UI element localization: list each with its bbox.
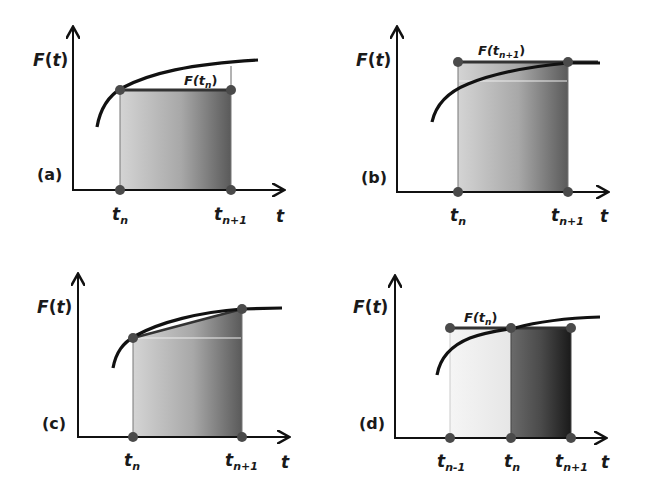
annotation-F-tn: F(tn) bbox=[464, 310, 497, 327]
y-axis-label: F(t) bbox=[37, 297, 72, 317]
point-tn1-top bbox=[237, 304, 247, 314]
point-tn1-top bbox=[566, 323, 576, 333]
panel-label: (d) bbox=[359, 414, 385, 433]
tick-label-tn: tn bbox=[450, 205, 466, 228]
area-left-rectangle bbox=[120, 90, 231, 190]
point-tn-axis bbox=[453, 187, 463, 197]
annotation-F-tn: F(tn) bbox=[184, 73, 217, 90]
annotation-F-tn1: F(tn+1) bbox=[478, 43, 525, 60]
x-axis-label: t bbox=[601, 452, 610, 472]
panel-a: F(t) (a) F(tn) tn tn+1 t bbox=[33, 28, 285, 227]
point-tn-top bbox=[453, 57, 463, 67]
tick-label-tn1: tn+1 bbox=[555, 451, 588, 474]
point-tn1-axis bbox=[563, 187, 573, 197]
point-tn1-axis bbox=[226, 185, 236, 195]
tick-label-tn1: tn+1 bbox=[214, 204, 247, 227]
point-tn1-top bbox=[226, 85, 236, 95]
point-tn-axis bbox=[506, 433, 516, 443]
y-axis-label: F(t) bbox=[353, 297, 388, 317]
x-axis-label: t bbox=[281, 452, 290, 472]
point-tn-1-axis bbox=[445, 433, 455, 443]
panel-d: F(t) (d) F(tn) tn-1 tn tn+1 t bbox=[353, 277, 610, 474]
x-axis-label: t bbox=[600, 206, 609, 226]
point-tn-top bbox=[506, 323, 516, 333]
y-axis-label: F(t) bbox=[356, 50, 391, 70]
tick-label-tn-1: tn-1 bbox=[437, 451, 465, 474]
point-tn-axis bbox=[115, 185, 125, 195]
tick-label-tn: tn bbox=[124, 450, 140, 473]
point-tn-axis bbox=[128, 432, 138, 442]
point-tn-top bbox=[128, 333, 138, 343]
tick-label-tn: tn bbox=[112, 204, 128, 227]
tick-label-tn1: tn+1 bbox=[225, 450, 258, 473]
figure-canvas: F(t) (a) F(tn) tn tn+1 t F(t) (b) F(tn+1… bbox=[0, 0, 649, 490]
panel-label: (a) bbox=[37, 165, 62, 184]
panel-label: (c) bbox=[42, 414, 66, 433]
point-tn1-axis bbox=[566, 433, 576, 443]
area-dark-rectangle bbox=[511, 328, 571, 438]
point-tn-1-top bbox=[445, 323, 455, 333]
panel-b: F(t) (b) F(tn+1) tn tn+1 t bbox=[356, 28, 609, 228]
panel-c: F(t) (c) tn tn+1 t bbox=[37, 275, 290, 473]
point-tn1-axis bbox=[237, 432, 247, 442]
panel-label: (b) bbox=[361, 168, 387, 187]
tick-label-tn: tn bbox=[504, 451, 520, 474]
point-tn1-top bbox=[563, 57, 573, 67]
tick-label-tn1: tn+1 bbox=[551, 205, 584, 228]
y-axis-label: F(t) bbox=[33, 50, 68, 70]
point-tn-top bbox=[115, 85, 125, 95]
x-axis-label: t bbox=[276, 206, 285, 226]
